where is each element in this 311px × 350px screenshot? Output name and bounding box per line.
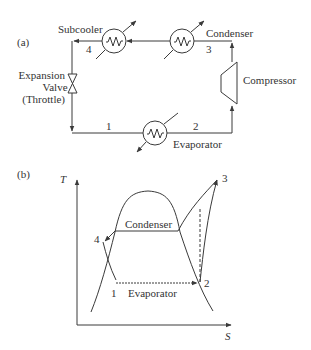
ts-state-4-label: 4 [94, 233, 100, 245]
cycle-schematic: (a) [17, 21, 297, 152]
ts-diagram: (b) T S Condenser Evaporator 1 2 3 4 [17, 168, 231, 342]
throttle-curve [103, 242, 116, 280]
condenser-label: Condenser [206, 27, 253, 39]
ts-state-2-label: 2 [204, 277, 210, 289]
evaporator-process-label: Evaporator [128, 287, 177, 299]
state-1-label: 1 [106, 120, 112, 132]
expansion-valve-icon [68, 74, 77, 93]
compressor-label: Compressor [243, 74, 297, 86]
ts-state-1-label: 1 [111, 287, 117, 299]
x-axis-label: S [225, 330, 231, 342]
y-axis-label: T [60, 173, 67, 185]
compressor-icon [221, 62, 237, 104]
valve-label-line2: Valve [42, 81, 67, 93]
refrigeration-cycle-diagram: (a) [0, 0, 311, 350]
condenser-heat-exchanger-icon [164, 21, 204, 59]
state-3-label: 3 [206, 43, 212, 55]
state-4-label: 4 [86, 43, 92, 55]
evaporator-label: Evaporator [173, 138, 222, 150]
valve-label-line3: (Throttle) [22, 93, 65, 106]
ts-state-3-label: 3 [222, 172, 228, 184]
state-2-label: 2 [193, 120, 199, 132]
part-b-label: (b) [17, 168, 30, 181]
condenser-process-label: Condenser [125, 218, 172, 230]
subcooler-label: Subcooler [58, 23, 103, 35]
part-a-label: (a) [17, 36, 30, 49]
valve-label-line1: Expansion [19, 69, 66, 81]
